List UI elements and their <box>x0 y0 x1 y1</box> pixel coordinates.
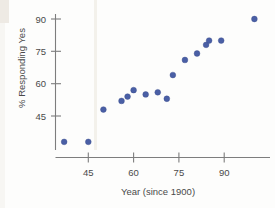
data-point <box>131 87 137 93</box>
plot-canvas: 90 75 60 45 % Responding Yes 45 60 75 90… <box>0 0 275 208</box>
data-point <box>125 94 131 100</box>
y-axis-group: 90 75 60 45 % Responding Yes <box>16 14 61 151</box>
x-tick-labels: 45 60 75 90 <box>83 167 229 178</box>
x-tick-label-45: 45 <box>83 167 94 178</box>
data-points-layer <box>61 16 257 145</box>
data-point <box>206 38 212 44</box>
y-tick-label-75: 75 <box>35 46 46 57</box>
data-point <box>119 98 125 104</box>
data-point <box>101 107 107 113</box>
y-tick-label-90: 90 <box>35 14 46 25</box>
data-point <box>85 139 91 145</box>
x-axis-group: 45 60 75 90 Year (since 1900) <box>56 153 271 198</box>
data-point <box>143 92 149 98</box>
data-point <box>194 51 200 57</box>
x-tick-label-60: 60 <box>128 167 139 178</box>
data-point <box>164 96 170 102</box>
x-tick-label-75: 75 <box>174 167 185 178</box>
data-point <box>252 16 258 22</box>
data-point <box>170 72 176 78</box>
data-point <box>182 57 188 63</box>
y-tick-labels: 90 75 60 45 <box>35 14 46 122</box>
y-tick-label-45: 45 <box>35 111 46 122</box>
x-axis-title: Year (since 1900) <box>121 186 195 197</box>
scatter-plot-figure: 90 75 60 45 % Responding Yes 45 60 75 90… <box>0 0 275 208</box>
y-axis-title: % Responding Yes <box>16 28 27 108</box>
data-point <box>218 38 224 44</box>
data-point <box>61 139 67 145</box>
x-tick-label-90: 90 <box>219 167 230 178</box>
y-tick-label-60: 60 <box>35 78 46 89</box>
data-point <box>155 89 161 95</box>
